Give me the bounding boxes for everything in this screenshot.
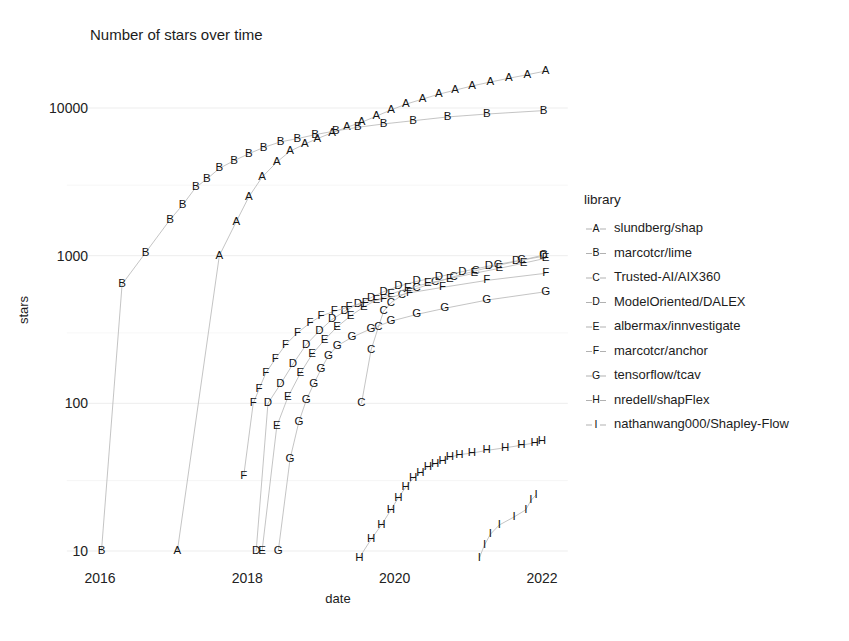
data-point-H-12: H [455,448,463,460]
data-point-H-15: H [501,441,509,453]
stars-over-time-chart: Number of stars over time 10100100010000… [0,0,849,641]
data-point-E-5: E [321,333,329,345]
data-point-B-2: B [142,246,150,258]
data-point-A-7: A [301,137,309,149]
data-point-B-20: B [540,104,548,116]
data-point-B-3: B [166,213,174,225]
data-point-G-3: G [302,393,311,405]
page-title: Number of stars over time [90,26,263,43]
y-axis-label: stars [16,295,31,324]
data-point-A-15: A [419,92,427,104]
legend-label-I: nathanwang000/Shapley-Flow [614,416,790,431]
data-point-G-12: G [440,301,449,313]
data-point-B-5: B [192,180,200,192]
data-point-B-14: B [332,124,340,136]
data-point-A-4: A [258,170,266,182]
data-point-F-0: F [240,469,247,481]
data-point-A-2: A [232,215,240,227]
data-point-F-8: F [317,309,324,321]
data-point-H-4: H [394,491,402,503]
legend-key-D: D [592,295,600,307]
x-tick-label-2018: 2018 [232,570,263,586]
data-point-E-12: E [424,276,432,288]
data-point-A-16: A [435,87,443,99]
data-point-F-2: F [256,382,263,394]
data-point-A-5: A [273,155,281,167]
y-tick-label-10: 10 [72,543,88,559]
data-point-A-6: A [286,144,294,156]
data-point-E-4: E [308,347,316,359]
legend-key-E: E [592,320,599,332]
data-point-A-3: A [245,190,253,202]
data-point-I-0: I [478,551,481,563]
data-point-G-10: G [387,314,396,326]
data-point-D-15: D [485,259,493,271]
data-point-D-12: D [413,274,421,286]
legend-label-H: nredell/shapFlex [614,392,710,407]
legend-label-A: slundberg/shap [614,220,703,235]
data-point-F-1: F [250,396,257,408]
data-point-G-4: G [309,377,318,389]
legend-label-D: ModelOriented/DALEX [614,294,746,309]
data-point-B-18: B [444,110,452,122]
legend-key-A: A [592,222,599,234]
data-point-B-15: B [354,120,362,132]
data-point-G-0: G [274,544,283,556]
data-point-D-11: D [394,279,402,291]
legend-key-H: H [592,393,600,405]
x-tick-label-2020: 2020 [379,570,410,586]
data-point-G-1: G [286,452,295,464]
data-point-E-16: E [520,256,528,268]
data-point-G-13: G [482,293,491,305]
data-point-E-3: E [297,366,305,378]
data-point-G-7: G [333,339,342,351]
data-point-F-15: F [483,273,490,285]
data-point-G-11: G [412,307,421,319]
data-point-B-11: B [277,135,285,147]
data-point-B-4: B [179,198,187,210]
legend-key-C: C [592,271,600,283]
x-tick-label-2016: 2016 [84,570,115,586]
data-point-C-0: C [357,396,365,408]
data-point-F-10: F [345,300,352,312]
legend-key-G: G [592,369,600,381]
legend-label-E: albermax/innvestigate [614,318,740,333]
data-point-B-19: B [483,107,491,119]
data-point-C-1: C [367,343,375,355]
data-point-E-13: E [446,272,454,284]
data-point-B-6: B [203,172,211,184]
data-point-E-2: E [284,390,292,402]
data-point-H-13: H [468,446,476,458]
data-point-A-21: A [523,68,531,80]
x-tick-label-2022: 2022 [526,570,557,586]
data-point-G-2: G [294,415,303,427]
data-point-B-1: B [118,277,126,289]
data-point-D-1: D [264,396,272,408]
data-point-B-17: B [409,114,417,126]
data-point-I-3: I [498,518,501,530]
data-point-H-3: H [387,503,395,515]
legend-label-C: Trusted-AI/AIX360 [614,269,720,284]
data-point-A-19: A [487,75,495,87]
data-point-B-12: B [294,132,302,144]
data-point-I-1: I [483,538,486,550]
data-point-H-14: H [483,443,491,455]
data-point-H-16: H [517,438,525,450]
data-point-H-0: H [355,551,363,563]
data-point-E-6: E [333,320,341,332]
data-point-F-4: F [272,352,279,364]
data-point-G-9: G [367,322,376,334]
legend-item-I[interactable]: Inathanwang000/Shapley-Flow [586,416,790,431]
data-point-E-1: E [273,419,281,431]
data-point-E-14: E [470,266,478,278]
data-point-B-9: B [245,147,253,159]
data-point-G-5: G [317,362,326,374]
data-point-B-10: B [260,141,268,153]
data-point-F-6: F [294,326,301,338]
data-point-G-8: G [347,330,356,342]
data-point-G-6: G [324,349,333,361]
legend-label-G: tensorflow/tcav [614,367,701,382]
data-point-F-14: F [439,280,446,292]
data-point-I-6: I [529,493,532,505]
data-point-F-12: F [380,292,387,304]
